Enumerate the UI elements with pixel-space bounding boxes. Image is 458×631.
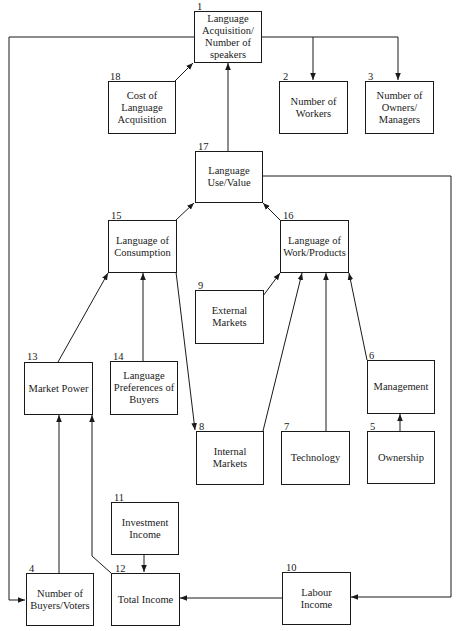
node-label: Language of Consumption bbox=[111, 235, 174, 259]
node-language-preferences-of-buyers: Language Preferences of Buyers bbox=[110, 361, 178, 415]
edge-18-1 bbox=[175, 63, 193, 81]
node-ownership: Ownership bbox=[367, 431, 435, 484]
node-label: Total Income bbox=[118, 594, 174, 606]
edge-1-3 bbox=[313, 37, 398, 80]
node-number: 13 bbox=[27, 352, 38, 362]
node-market-power: Market Power bbox=[24, 362, 93, 415]
node-total-income: Total Income bbox=[111, 573, 180, 626]
node-number-of-workers: Number of Workers bbox=[279, 81, 348, 134]
node-label: Number of Buyers/Voters bbox=[29, 588, 91, 612]
node-language-acquisition: Language Acquisition/ Number of speakers bbox=[194, 11, 262, 63]
edge-15-8 bbox=[176, 272, 195, 430]
node-label: Number of Workers bbox=[282, 96, 345, 120]
node-number-of-buyers-voters: Number of Buyers/Voters bbox=[26, 573, 94, 626]
node-number-of-owners-managers: Number of Owners/ Managers bbox=[365, 81, 434, 134]
edge-16-17 bbox=[263, 203, 280, 220]
node-label: Technology bbox=[291, 452, 340, 464]
node-internal-markets: Internal Markets bbox=[196, 431, 264, 485]
node-language-use-value: Language Use/Value bbox=[195, 151, 263, 203]
node-label: Ownership bbox=[378, 452, 424, 464]
edge-6-16 bbox=[349, 273, 367, 360]
node-investment-income: Investment Income bbox=[111, 502, 179, 555]
edge-13-15 bbox=[58, 273, 108, 362]
edge-9-16 bbox=[263, 273, 280, 296]
node-language-of-consumption: Language of Consumption bbox=[108, 220, 177, 273]
node-labour-income: Labour Income bbox=[282, 572, 351, 625]
node-label: Number of Owners/ Managers bbox=[368, 90, 431, 126]
node-technology: Technology bbox=[281, 431, 350, 485]
edge-8-16 bbox=[263, 273, 302, 431]
node-label: Language Preferences of Buyers bbox=[113, 370, 175, 406]
node-label: Investment Income bbox=[114, 517, 176, 541]
node-label: Language of Work/Products bbox=[283, 235, 346, 259]
node-label: Internal Markets bbox=[199, 446, 261, 470]
node-label: Market Power bbox=[29, 383, 89, 395]
edge-15-17 bbox=[176, 203, 194, 220]
node-label: Language Use/Value bbox=[198, 165, 260, 189]
node-label: Management bbox=[374, 381, 429, 393]
node-label: External Markets bbox=[198, 305, 261, 329]
node-language-of-work-products: Language of Work/Products bbox=[280, 220, 349, 273]
node-management: Management bbox=[367, 360, 435, 414]
edge-12-13 bbox=[92, 415, 111, 573]
node-label: Labour Income bbox=[285, 587, 348, 611]
node-label: Language Acquisition/ Number of speakers bbox=[197, 13, 259, 61]
node-label: Cost of Language Acquisition bbox=[111, 90, 173, 126]
node-cost-of-language-acquisition: Cost of Language Acquisition bbox=[108, 81, 176, 134]
node-external-markets: External Markets bbox=[195, 290, 264, 344]
